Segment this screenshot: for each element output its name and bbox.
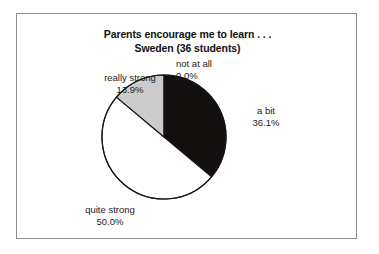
pie-label-a-bit-value: 36.1% [245,117,287,129]
chart-frame: Parents encourage me to learn . . . Swed… [16,13,357,239]
pie-label-not-at-all: not at all 0.0% [176,58,212,82]
pie-label-quite-strong-value: 50.0% [70,216,150,228]
pie-chart: not at all 0.0% really strong 13.9% a bi… [17,14,358,240]
chart-figure: Parents encourage me to learn . . . Swed… [0,0,379,254]
pie-label-quite-strong-name: quite strong [70,204,150,216]
pie-label-quite-strong: quite strong 50.0% [70,204,150,228]
pie-label-not-at-all-name: not at all [176,58,212,70]
pie-label-a-bit: a bit 36.1% [245,105,287,129]
pie-label-really-strong-name: really strong [89,72,171,84]
pie-label-really-strong-value: 13.9% [89,84,171,96]
pie-label-really-strong: really strong 13.9% [89,72,171,96]
pie-label-not-at-all-value: 0.0% [176,70,212,82]
pie-label-a-bit-name: a bit [245,105,287,117]
